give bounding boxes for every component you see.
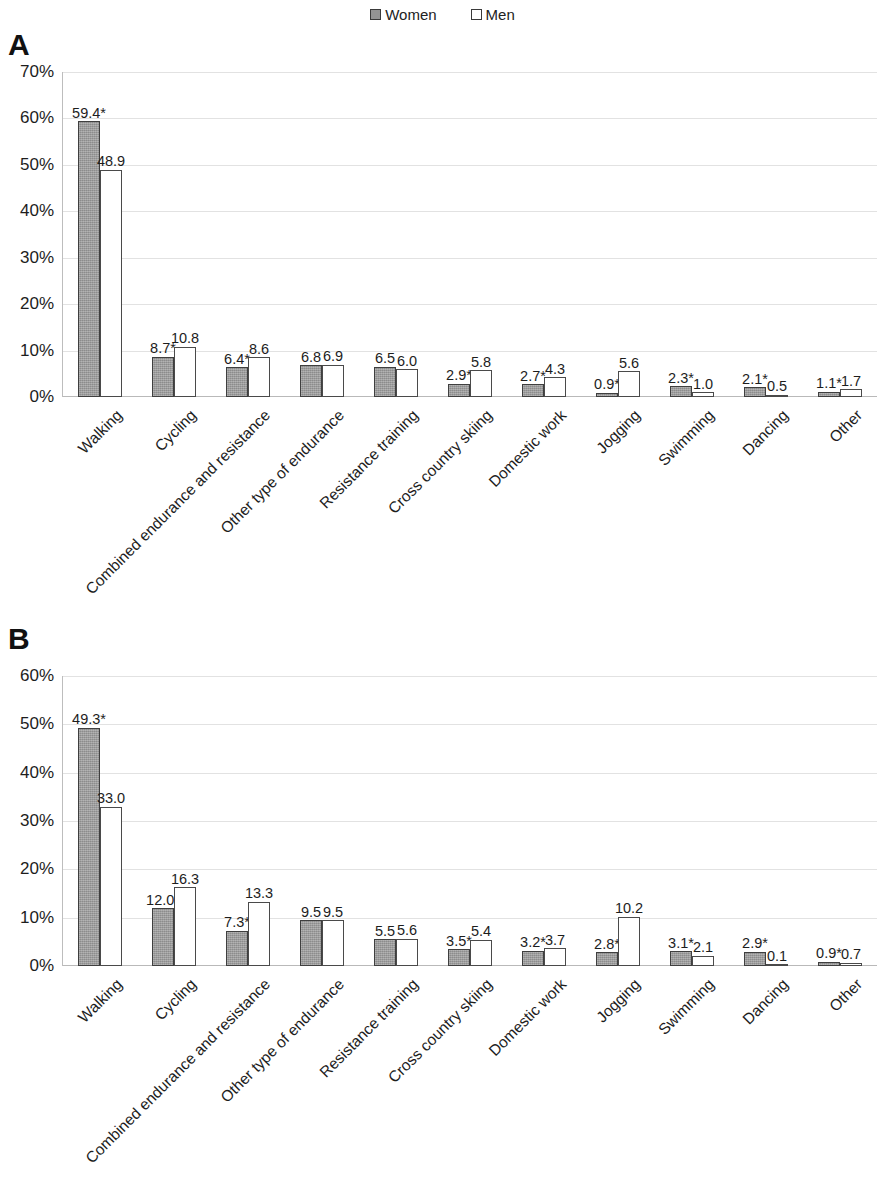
bar-value-label: 2.7* [520, 369, 546, 384]
bar-value-label: 5.5 [375, 924, 395, 939]
bar-group: 0.9*5.6 [581, 72, 655, 397]
bar-value-label: 3.5* [446, 934, 472, 949]
bar-pair: 6.86.9 [285, 72, 359, 397]
x-axis-category-label: Walking [75, 976, 125, 1026]
bar-group: 1.1*1.7 [803, 72, 877, 397]
y-axis-tick-label: 40% [20, 201, 54, 221]
bar-pair: 6.4*8.6 [211, 72, 285, 397]
bar-pair: 1.1*1.7 [803, 72, 877, 397]
bar-women: 9.5 [300, 920, 322, 966]
bar-women: 2.7* [522, 384, 544, 397]
x-axis-category-label: Jogging [594, 976, 643, 1025]
y-axis-tick-label: 20% [20, 859, 54, 879]
legend-label-men: Men [486, 6, 515, 23]
bar-value-label: 8.6 [249, 342, 269, 357]
bar-group: 3.2*3.7 [507, 676, 581, 966]
bar-group: 2.8*10.2 [581, 676, 655, 966]
bar-men: 1.0 [692, 392, 714, 397]
bar-women: 2.8* [596, 952, 618, 966]
bar-men: 10.8 [174, 347, 196, 397]
bar-men: 6.0 [396, 369, 418, 397]
panel-b-letter: B [8, 622, 30, 656]
bar-group: 7.3*13.3 [211, 676, 285, 966]
y-axis-tick-label: 70% [20, 62, 54, 82]
bar-value-label: 3.7 [545, 933, 565, 948]
bar-pair: 49.3*33.0 [63, 676, 137, 966]
bar-value-label: 0.7 [841, 947, 861, 962]
bar-value-label: 1.1* [816, 376, 842, 391]
bar-value-label: 2.8* [594, 937, 620, 952]
bar-value-label: 33.0 [97, 791, 125, 806]
bar-women: 49.3* [78, 728, 100, 966]
bar-group: 3.5*5.4 [433, 676, 507, 966]
bar-women: 2.9* [448, 384, 470, 397]
bar-value-label: 5.6 [619, 356, 639, 371]
bar-pair: 5.55.6 [359, 676, 433, 966]
bar-value-label: 16.3 [171, 872, 199, 887]
bar-value-label: 10.2 [615, 901, 643, 916]
bar-men: 2.1 [692, 956, 714, 966]
bar-women: 2.1* [744, 387, 766, 397]
bar-value-label: 9.5 [301, 905, 321, 920]
bar-women: 3.5* [448, 949, 470, 966]
bar-group: 2.1*0.5 [729, 72, 803, 397]
bar-value-label: 1.0 [693, 377, 713, 392]
bar-value-label: 3.1* [668, 936, 694, 951]
bar-men: 10.2 [618, 917, 640, 966]
bar-value-label: 6.4* [224, 352, 250, 367]
bar-pair: 2.3*1.0 [655, 72, 729, 397]
bar-value-label: 6.9 [323, 349, 343, 364]
bar-women: 6.4* [226, 367, 248, 397]
bar-women: 6.8 [300, 365, 322, 397]
bar-value-label: 10.8 [171, 331, 199, 346]
bar-pair: 8.7*10.8 [137, 72, 211, 397]
x-axis-category-label: Cycling [152, 407, 199, 454]
x-axis-category-label: Other type of endurance [218, 976, 347, 1105]
legend-swatch-men-icon [471, 9, 482, 20]
bar-men: 8.6 [248, 357, 270, 397]
bar-value-label: 5.8 [471, 355, 491, 370]
y-axis-tick-label: 60% [20, 666, 54, 686]
bar-group: 5.55.6 [359, 676, 433, 966]
y-axis-tick-label: 0% [29, 387, 54, 407]
bar-women: 2.3* [670, 386, 692, 397]
bar-group: 59.4*48.9 [63, 72, 137, 397]
bar-value-label: 5.6 [397, 923, 417, 938]
bar-men: 16.3 [174, 887, 196, 966]
y-axis-tick-label: 60% [20, 108, 54, 128]
x-axis-category-label: Jogging [594, 407, 643, 456]
bar-pair: 2.8*10.2 [581, 676, 655, 966]
bar-group: 49.3*33.0 [63, 676, 137, 966]
bar-women: 1.1* [818, 392, 840, 397]
bar-pair: 3.2*3.7 [507, 676, 581, 966]
y-axis-tick-label: 10% [20, 341, 54, 361]
bar-men: 0.5 [766, 395, 788, 397]
bar-men: 3.7 [544, 948, 566, 966]
bar-women: 8.7* [152, 357, 174, 397]
bar-pair: 0.9*0.7 [803, 676, 877, 966]
bar-value-label: 0.5 [767, 379, 787, 394]
bar-group: 8.7*10.8 [137, 72, 211, 397]
y-axis-tick-label: 0% [29, 956, 54, 976]
plot-area-b: 0%10%20%30%40%50%60%49.3*33.012.0*16.37.… [63, 676, 877, 966]
chart-legend: Women Men [0, 6, 885, 23]
bar-pair: 7.3*13.3 [211, 676, 285, 966]
chart-panel-a: A 0%10%20%30%40%50%60%70%59.4*48.98.7*10… [0, 28, 885, 618]
y-axis-tick-label: 50% [20, 155, 54, 175]
x-axis-category-label: Dancing [740, 407, 791, 458]
bar-value-label: 3.2* [520, 935, 546, 950]
bar-pair: 0.9*5.6 [581, 72, 655, 397]
bar-women: 3.1* [670, 951, 692, 966]
bar-value-label: 2.9* [446, 368, 472, 383]
bar-men: 13.3 [248, 902, 270, 966]
bar-women: 7.3* [226, 931, 248, 966]
bar-pair: 2.7*4.3 [507, 72, 581, 397]
bar-pair: 59.4*48.9 [63, 72, 137, 397]
bar-men: 5.6 [396, 939, 418, 966]
y-axis-tick-label: 30% [20, 248, 54, 268]
bar-value-label: 48.9 [97, 154, 125, 169]
bar-pair: 6.56.0 [359, 72, 433, 397]
bar-group: 6.86.9 [285, 72, 359, 397]
bar-value-label: 2.3* [668, 371, 694, 386]
y-axis-tick-label: 50% [20, 714, 54, 734]
